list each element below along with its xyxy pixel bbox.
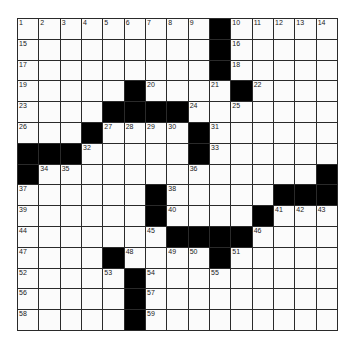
grid-cell[interactable] (189, 81, 209, 101)
grid-cell[interactable] (274, 40, 294, 60)
grid-cell[interactable] (39, 269, 59, 289)
grid-cell[interactable]: 9 (189, 19, 209, 39)
grid-cell[interactable]: 57 (146, 289, 166, 309)
grid-cell[interactable] (274, 165, 294, 185)
grid-cell[interactable]: 27 (103, 123, 123, 143)
grid-cell[interactable] (274, 289, 294, 309)
grid-cell[interactable] (146, 165, 166, 185)
grid-cell[interactable]: 17 (18, 61, 38, 81)
grid-cell[interactable] (210, 102, 230, 122)
grid-cell[interactable] (82, 269, 102, 289)
grid-cell[interactable] (61, 61, 81, 81)
grid-cell[interactable] (103, 144, 123, 164)
grid-cell[interactable] (253, 102, 273, 122)
grid-cell[interactable]: 42 (295, 206, 315, 226)
grid-cell[interactable] (189, 310, 209, 330)
grid-cell[interactable]: 11 (253, 19, 273, 39)
grid-cell[interactable] (253, 165, 273, 185)
grid-cell[interactable] (189, 206, 209, 226)
grid-cell[interactable] (253, 61, 273, 81)
grid-cell[interactable] (231, 206, 251, 226)
grid-cell[interactable] (295, 40, 315, 60)
grid-cell[interactable]: 56 (18, 289, 38, 309)
grid-cell[interactable]: 52 (18, 269, 38, 289)
grid-cell[interactable] (317, 227, 337, 247)
grid-cell[interactable] (103, 227, 123, 247)
grid-cell[interactable] (61, 123, 81, 143)
grid-cell[interactable]: 5 (103, 19, 123, 39)
grid-cell[interactable]: 25 (231, 102, 251, 122)
grid-cell[interactable] (274, 144, 294, 164)
grid-cell[interactable]: 15 (18, 40, 38, 60)
grid-cell[interactable] (167, 81, 187, 101)
grid-cell[interactable] (253, 185, 273, 205)
grid-cell[interactable] (210, 206, 230, 226)
grid-cell[interactable] (103, 61, 123, 81)
grid-cell[interactable]: 26 (18, 123, 38, 143)
grid-cell[interactable] (146, 144, 166, 164)
grid-cell[interactable] (274, 102, 294, 122)
grid-cell[interactable] (103, 206, 123, 226)
grid-cell[interactable] (189, 40, 209, 60)
grid-cell[interactable] (167, 269, 187, 289)
grid-cell[interactable]: 55 (210, 269, 230, 289)
grid-cell[interactable] (146, 248, 166, 268)
grid-cell[interactable]: 23 (18, 102, 38, 122)
grid-cell[interactable] (253, 269, 273, 289)
grid-cell[interactable] (61, 227, 81, 247)
grid-cell[interactable] (167, 310, 187, 330)
grid-cell[interactable] (82, 206, 102, 226)
grid-cell[interactable] (39, 102, 59, 122)
grid-cell[interactable] (146, 40, 166, 60)
grid-cell[interactable]: 59 (146, 310, 166, 330)
grid-cell[interactable] (39, 61, 59, 81)
grid-cell[interactable] (253, 40, 273, 60)
grid-cell[interactable] (274, 248, 294, 268)
grid-cell[interactable] (103, 40, 123, 60)
grid-cell[interactable]: 35 (61, 165, 81, 185)
grid-cell[interactable] (253, 310, 273, 330)
grid-cell[interactable] (231, 144, 251, 164)
grid-cell[interactable] (295, 123, 315, 143)
grid-cell[interactable] (231, 269, 251, 289)
grid-cell[interactable]: 20 (146, 81, 166, 101)
grid-cell[interactable] (39, 185, 59, 205)
grid-cell[interactable] (317, 310, 337, 330)
grid-cell[interactable]: 36 (189, 165, 209, 185)
grid-cell[interactable] (146, 61, 166, 81)
grid-cell[interactable] (317, 123, 337, 143)
grid-cell[interactable] (210, 185, 230, 205)
grid-cell[interactable] (210, 165, 230, 185)
grid-cell[interactable] (167, 61, 187, 81)
grid-cell[interactable]: 32 (82, 144, 102, 164)
grid-cell[interactable] (167, 289, 187, 309)
grid-cell[interactable] (39, 40, 59, 60)
grid-cell[interactable] (295, 310, 315, 330)
grid-cell[interactable] (125, 185, 145, 205)
grid-cell[interactable]: 37 (18, 185, 38, 205)
grid-cell[interactable]: 50 (189, 248, 209, 268)
grid-cell[interactable] (125, 227, 145, 247)
grid-cell[interactable]: 21 (210, 81, 230, 101)
grid-cell[interactable]: 6 (125, 19, 145, 39)
grid-cell[interactable] (61, 185, 81, 205)
grid-cell[interactable] (253, 123, 273, 143)
grid-cell[interactable]: 3 (61, 19, 81, 39)
grid-cell[interactable] (167, 165, 187, 185)
grid-cell[interactable] (82, 165, 102, 185)
grid-cell[interactable]: 48 (125, 248, 145, 268)
grid-cell[interactable] (82, 227, 102, 247)
grid-cell[interactable] (210, 310, 230, 330)
grid-cell[interactable] (317, 248, 337, 268)
grid-cell[interactable] (295, 81, 315, 101)
grid-cell[interactable] (103, 165, 123, 185)
grid-cell[interactable]: 44 (18, 227, 38, 247)
grid-cell[interactable] (295, 269, 315, 289)
grid-cell[interactable] (317, 269, 337, 289)
grid-cell[interactable]: 28 (125, 123, 145, 143)
grid-cell[interactable]: 49 (167, 248, 187, 268)
grid-cell[interactable] (61, 310, 81, 330)
grid-cell[interactable] (295, 227, 315, 247)
grid-cell[interactable] (82, 289, 102, 309)
grid-cell[interactable] (189, 185, 209, 205)
